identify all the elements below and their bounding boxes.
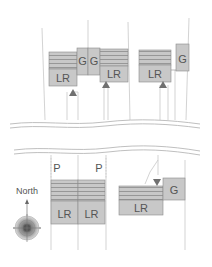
site-plan-diagram: LR G G LR LR G P LR P LR [0,0,212,267]
house-6: LR G [119,178,185,215]
garage-label: G [170,184,179,196]
compass: North [13,186,41,242]
lr-label: LR [148,68,162,80]
house-2: LR [100,49,128,88]
garage-label: G [78,55,87,67]
house-1: LR [49,52,77,96]
garage-label: G [90,55,99,67]
lr-label: LR [84,208,98,220]
house-4: P LR [51,162,78,224]
house-5: P LR [78,162,105,224]
garage-3: G [176,44,189,71]
parking-label: P [95,162,102,174]
garage-label: G [178,53,187,65]
entry-marker-icon [153,179,161,186]
garage-pair: G G [77,48,100,75]
lr-label: LR [107,68,121,80]
road [10,120,200,155]
lr-label: LR [56,72,70,84]
lr-label: LR [134,202,148,214]
lr-label: LR [57,208,71,220]
house-3: LR [139,50,177,88]
entry-marker-icon [69,89,77,96]
north-label: North [16,186,38,196]
parking-label: P [53,162,60,174]
